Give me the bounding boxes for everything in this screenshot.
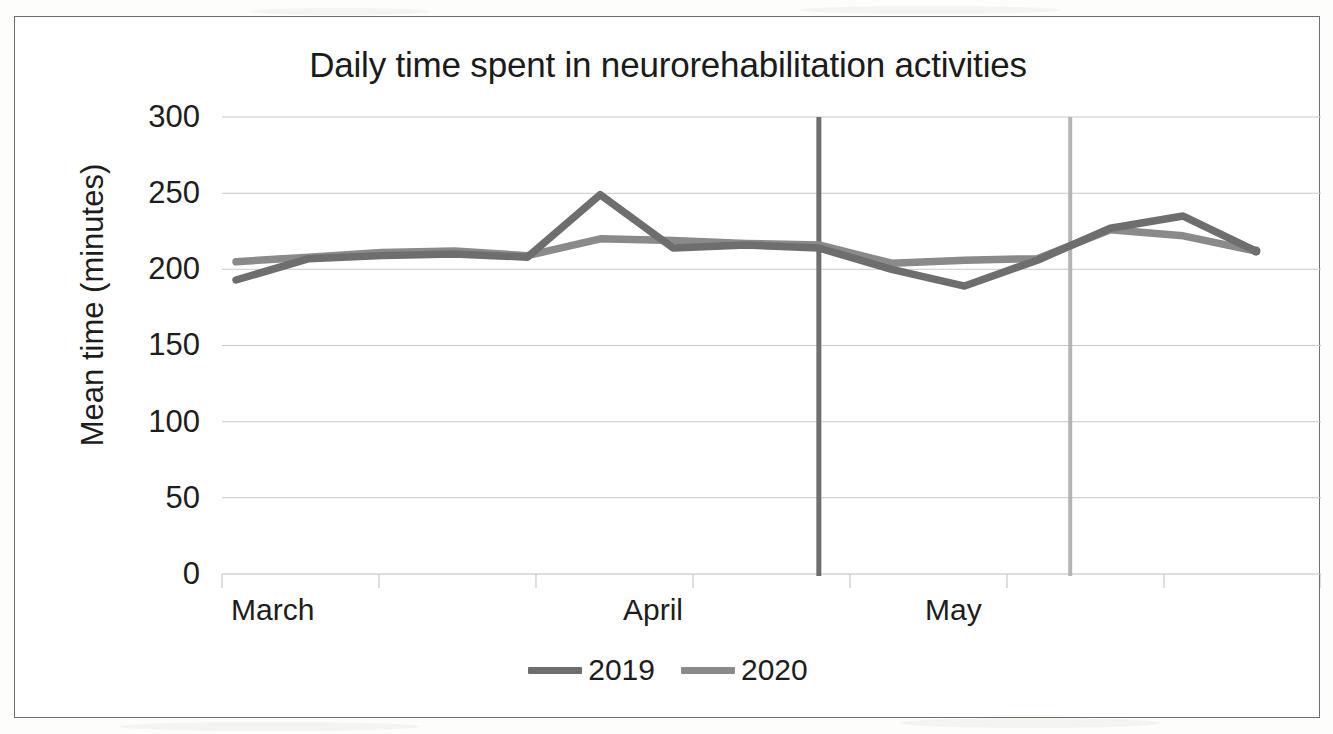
legend-label-2020: 2020 bbox=[741, 655, 808, 685]
x-tick-label-may: May bbox=[925, 595, 982, 625]
x-tick-label-april: April bbox=[623, 595, 683, 625]
legend-entry-2019[interactable]: 2019 bbox=[528, 655, 655, 685]
y-tick-label-300: 300 bbox=[110, 101, 200, 132]
y-tick-label-0: 0 bbox=[110, 558, 200, 589]
y-tick-label-250: 250 bbox=[110, 177, 200, 208]
y-tick-label-50: 50 bbox=[110, 482, 200, 513]
plot-area: Mean time (minutes) 300 250 200 150 100 … bbox=[15, 17, 1321, 719]
line-swatch-icon bbox=[681, 667, 735, 674]
y-tick-label-200: 200 bbox=[110, 253, 200, 284]
figure-frame: Daily time spent in neurorehabilitation … bbox=[14, 16, 1320, 718]
scan-artifact bbox=[800, 6, 1060, 14]
line-swatch-icon bbox=[528, 667, 582, 674]
scan-artifact bbox=[120, 722, 420, 731]
y-axis-title: Mean time (minutes) bbox=[75, 95, 111, 515]
x-tick-label-march: March bbox=[231, 595, 314, 625]
series-end-point bbox=[1251, 246, 1260, 255]
legend-entry-2020[interactable]: 2020 bbox=[681, 655, 808, 685]
legend-label-2019: 2019 bbox=[588, 655, 655, 685]
chart-legend: 2019 2020 bbox=[15, 655, 1321, 685]
scan-artifact bbox=[900, 718, 1160, 728]
y-tick-label-100: 100 bbox=[110, 406, 200, 437]
x-axis-ticks bbox=[222, 574, 1321, 588]
gridlines bbox=[222, 117, 1321, 498]
scanned-page-background: Daily time spent in neurorehabilitation … bbox=[0, 0, 1333, 734]
scan-artifact bbox=[250, 8, 430, 15]
y-tick-label-150: 150 bbox=[110, 329, 200, 360]
